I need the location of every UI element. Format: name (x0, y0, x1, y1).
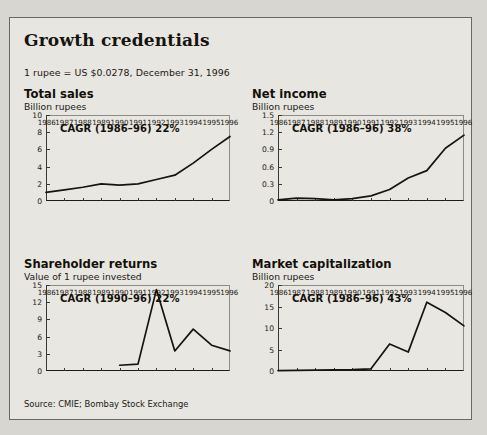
y-axis-tick-label: 9 (24, 315, 42, 324)
source-note: Source: CMIE; Bombay Stock Exchange (24, 399, 188, 409)
chart-net-income: Net income Billion rupees 00.30.60.91.21… (252, 88, 464, 220)
chart-title: Net income (252, 88, 464, 100)
chart-subtitle: Billion rupees (24, 101, 230, 112)
y-axis-tick-label: 8 (24, 128, 42, 137)
y-axis-tick-label: 0 (24, 197, 42, 206)
plot-wrapper: 0246810198619871988198919901991199219931… (24, 115, 230, 220)
y-axis-tick-label: 0 (252, 367, 274, 376)
y-axis-tick-label: 0.6 (252, 162, 274, 171)
chart-title: Total sales (24, 88, 230, 100)
page-title: Growth credentials (24, 30, 210, 50)
y-axis-tick-label: 2 (24, 179, 42, 188)
figure-page: Growth credentials 1 rupee = US $0.0278,… (0, 0, 487, 435)
chart-market-capitalization: Market capitalization Billion rupees 051… (252, 258, 464, 390)
y-axis-tick-label: 0.9 (252, 145, 274, 154)
chart-subtitle: Billion rupees (252, 101, 464, 112)
y-axis-tick-label: 0.3 (252, 179, 274, 188)
chart-title: Shareholder returns (24, 258, 230, 270)
y-axis-tick-label: 15 (252, 302, 274, 311)
y-axis-tick-label: 6 (24, 145, 42, 154)
chart-total-sales: Total sales Billion rupees 0246810198619… (24, 88, 230, 220)
growth-credentials-panel: Growth credentials 1 rupee = US $0.0278,… (9, 17, 472, 420)
y-axis-tick-label: 1.2 (252, 128, 274, 137)
y-axis-tick-label: 6 (24, 332, 42, 341)
cagr-annotation: CAGR (1986–96) 38% (292, 123, 412, 134)
exchange-rate-note: 1 rupee = US $0.0278, December 31, 1996 (24, 67, 230, 78)
y-axis-tick-label: 0 (252, 197, 274, 206)
chart-subtitle: Billion rupees (252, 271, 464, 282)
plot-wrapper: 00.30.60.91.21.5198619871988198919901991… (252, 115, 464, 220)
chart-subtitle: Value of 1 rupee invested (24, 271, 230, 282)
chart-shareholder-returns: Shareholder returns Value of 1 rupee inv… (24, 258, 230, 390)
y-axis-tick-label: 5 (252, 345, 274, 354)
plot-wrapper: 0369121519861987198819891990199119921993… (24, 285, 230, 390)
y-axis-tick-label: 0 (24, 367, 42, 376)
plot-wrapper: 0510152019861987198819891990199119921993… (252, 285, 464, 390)
cagr-annotation: CAGR (1990–96) 22% (60, 293, 180, 304)
chart-title: Market capitalization (252, 258, 464, 270)
y-axis-tick-label: 12 (24, 298, 42, 307)
y-axis-tick-label: 4 (24, 162, 42, 171)
cagr-annotation: CAGR (1986–96) 43% (292, 293, 412, 304)
cagr-annotation: CAGR (1986–96) 22% (60, 123, 180, 134)
y-axis-tick-label: 3 (24, 349, 42, 358)
y-axis-tick-label: 10 (252, 324, 274, 333)
